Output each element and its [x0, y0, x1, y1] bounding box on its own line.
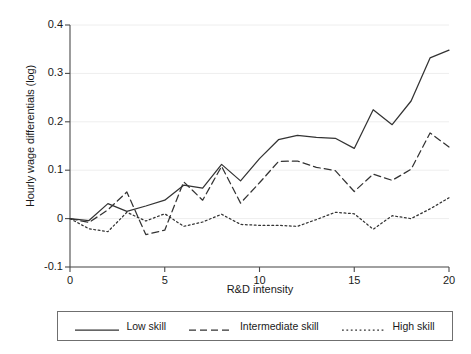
legend-line-swatch [75, 321, 119, 331]
x-tick-label: 10 [245, 274, 275, 286]
series-line [70, 50, 449, 220]
axis-lines [70, 25, 449, 267]
y-axis-title: Hourly wage differentials (log) [24, 31, 36, 241]
series-line [70, 198, 449, 232]
line-chart [0, 0, 471, 300]
plot-area: Hourly wage differentials (log) R&D inte… [0, 0, 471, 300]
y-tick-label: 0.1 [29, 163, 63, 175]
y-tick-label: -0.1 [29, 260, 63, 272]
x-tick-label: 5 [150, 274, 180, 286]
figure: Hourly wage differentials (log) R&D inte… [0, 0, 471, 354]
legend-item: High skill [342, 320, 435, 332]
series-line [70, 133, 449, 235]
legend-line-swatch [189, 321, 233, 331]
x-tick-label: 15 [339, 274, 369, 286]
legend-item: Intermediate skill [189, 320, 319, 332]
y-tick-label: 0.4 [29, 18, 63, 30]
y-tick-label: 0 [29, 212, 63, 224]
legend-label: Intermediate skill [240, 320, 319, 332]
legend-item: Low skill [75, 320, 166, 332]
x-tick-label: 20 [434, 274, 464, 286]
axis-ticks [65, 25, 449, 272]
y-tick-label: 0.3 [29, 66, 63, 78]
series-lines [70, 50, 449, 234]
x-tick-label: 0 [55, 274, 85, 286]
legend-label: High skill [393, 320, 435, 332]
y-tick-label: 0.2 [29, 115, 63, 127]
legend-line-swatch [342, 321, 386, 331]
legend-label: Low skill [126, 320, 166, 332]
gridlines [70, 25, 449, 267]
legend: Low skillIntermediate skillHigh skill [57, 311, 453, 341]
